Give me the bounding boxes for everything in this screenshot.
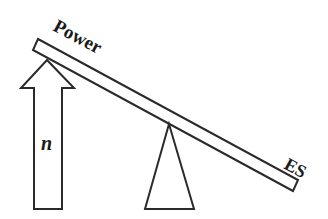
seesaw-diagram: Power ES n — [0, 0, 328, 219]
label-n: n — [41, 132, 52, 154]
fulcrum-triangle — [145, 124, 194, 209]
